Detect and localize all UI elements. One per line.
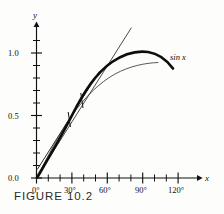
curves-group: sin x — [37, 28, 187, 178]
x-axis-label: x — [204, 173, 209, 183]
sin-curve-label: sin x — [170, 52, 186, 62]
x-tick-label-3: 90° — [135, 185, 147, 195]
y-tick-label-2: 1.0 — [8, 48, 19, 58]
approximation-curve — [37, 63, 159, 179]
y-axis-label: y — [32, 10, 37, 20]
plot-svg: 0.0 0.5 1.0 y 0° 30° 60° 90° — [0, 0, 224, 214]
sin-curve — [37, 52, 173, 178]
x-tick-label-4: 120° — [168, 185, 184, 195]
figure-container: 0.0 0.5 1.0 y 0° 30° 60° 90° — [0, 0, 224, 214]
x-tick-label-2: 60° — [99, 185, 111, 195]
y-axis-group: 0.0 0.5 1.0 y — [8, 10, 42, 183]
y-tick-label-1: 0.5 — [8, 111, 19, 121]
figure-caption: FIGURE 10.2 — [14, 190, 93, 202]
y-tick-label-0: 0.0 — [8, 173, 19, 183]
